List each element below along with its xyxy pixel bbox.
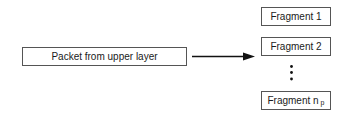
fragment-label: Fragment n: [267, 95, 318, 106]
ellipsis-dot: [290, 71, 293, 74]
fragment-label: Fragment 1: [270, 11, 321, 22]
fragmentation-arrowhead: [243, 53, 255, 61]
fragment-box-2: Fragment 2: [261, 37, 331, 56]
ellipsis-dot: [290, 65, 293, 68]
fragment-box-n: Fragment np: [261, 91, 331, 110]
ellipsis-dot: [290, 78, 293, 81]
fragment-box-1: Fragment 1: [261, 7, 331, 26]
fragment-subscript: p: [321, 99, 325, 106]
fragment-label: Fragment 2: [270, 41, 321, 52]
